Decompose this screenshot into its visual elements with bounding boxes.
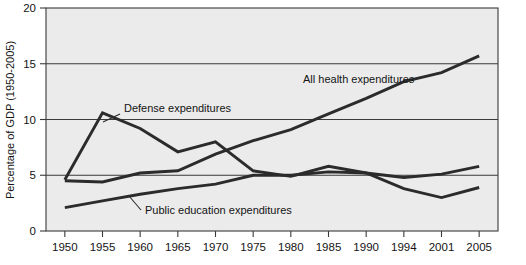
y-tick-label: 10 — [23, 114, 36, 126]
x-tick-label: 1965 — [165, 241, 191, 253]
y-tick-label: 0 — [30, 225, 36, 237]
x-tick-label: 1970 — [203, 241, 229, 253]
series-label: Public education expenditures — [145, 204, 292, 216]
y-tick-label: 5 — [30, 169, 36, 181]
x-tick-label: 2005 — [466, 241, 492, 253]
chart-figure: 05101520 1950195519601965197019751980198… — [0, 0, 526, 265]
x-tick-label: 1990 — [353, 241, 379, 253]
x-tick-label: 2001 — [429, 241, 455, 253]
y-tick-label: 20 — [23, 2, 36, 14]
x-tick-label: 1950 — [52, 241, 78, 253]
series-label: Defense expenditures — [124, 102, 232, 114]
x-tick-label: 1955 — [90, 241, 116, 253]
x-axis-ticks: 1950195519601965197019751980198519901994… — [52, 231, 492, 253]
x-tick-label: 1975 — [240, 241, 266, 253]
x-tick-label: 1994 — [391, 241, 417, 253]
x-tick-label: 1980 — [278, 241, 304, 253]
line-chart: 05101520 1950195519601965197019751980198… — [0, 0, 526, 265]
y-tick-label: 15 — [23, 58, 36, 70]
y-axis-ticks: 05101520 — [23, 2, 46, 237]
x-tick-label: 1960 — [127, 241, 153, 253]
x-tick-label: 1985 — [316, 241, 342, 253]
series-label: All health expenditures — [303, 73, 415, 85]
y-axis-title: Percentage of GDP (1950-2005) — [4, 41, 16, 199]
